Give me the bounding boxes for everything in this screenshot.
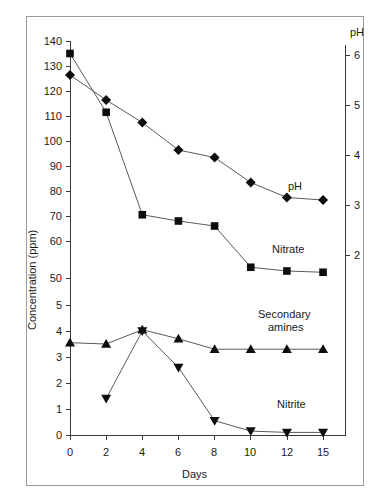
data-point-ph	[137, 118, 147, 128]
chart-plot-area	[0, 0, 389, 501]
series-line-nitrate	[70, 54, 323, 273]
data-point-ph	[318, 195, 328, 205]
chart-figure: 140 130 120 110 100 90 80 70 60 50 5 4 3…	[0, 0, 389, 501]
data-point-nitrite	[318, 429, 328, 438]
series-line-ph	[70, 75, 323, 200]
data-point-secondary-amines	[246, 344, 256, 353]
data-point-ph	[282, 193, 292, 203]
data-point-nitrate	[247, 263, 255, 271]
data-point-secondary-amines	[282, 344, 292, 353]
data-point-secondary-amines	[318, 344, 328, 353]
data-point-ph	[101, 95, 111, 105]
data-point-nitrate	[211, 222, 219, 230]
data-point-ph	[173, 145, 183, 155]
data-point-nitrate	[102, 108, 110, 116]
data-point-nitrate	[66, 50, 74, 58]
data-point-nitrate	[319, 268, 327, 276]
data-point-nitrite	[173, 364, 183, 373]
data-point-nitrite	[101, 395, 111, 404]
data-point-secondary-amines	[65, 338, 75, 347]
data-point-nitrate	[139, 211, 147, 219]
data-point-nitrate	[175, 217, 183, 225]
data-point-ph	[65, 70, 75, 80]
data-point-ph	[210, 153, 220, 163]
data-point-ph	[246, 178, 256, 188]
data-point-nitrate	[283, 267, 291, 275]
data-point-nitrite	[282, 429, 292, 438]
